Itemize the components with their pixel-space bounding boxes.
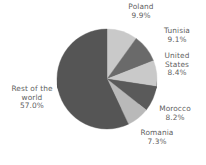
slice-label-rest-of-the-world-value: 57.0% (4, 102, 60, 111)
slice-label-tunisia: Tunisia 9.1% (150, 27, 204, 44)
slice-label-poland-value: 9.9% (113, 12, 169, 21)
slice-label-united-states: United States 8.4% (152, 52, 202, 78)
slice-label-poland: Poland 9.9% (113, 3, 169, 20)
slice-label-united-states-value: 8.4% (152, 69, 202, 78)
slice-label-morocco-value: 8.2% (148, 114, 202, 123)
slice-label-romania-value: 7.3% (130, 138, 184, 147)
slice-label-romania: Romania 7.3% (130, 129, 184, 146)
slice-label-rest-of-the-world: Rest of the world 57.0% (4, 85, 60, 111)
slice-label-morocco: Morocco 8.2% (148, 105, 202, 122)
pie-slices (57, 29, 157, 129)
pie-chart: Poland 9.9% Tunisia 9.1% United States 8… (0, 0, 206, 165)
slice-label-tunisia-value: 9.1% (150, 36, 204, 45)
